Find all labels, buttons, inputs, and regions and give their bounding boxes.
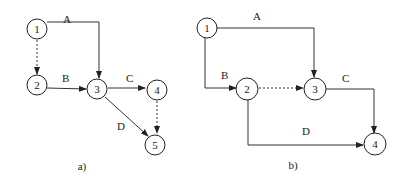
edge-a-2-3	[47, 88, 86, 89]
node-b-3: 3	[304, 78, 326, 100]
edge-label-b-B: B	[221, 69, 228, 81]
svg-text:1: 1	[34, 23, 40, 35]
edge-label-b-C: C	[342, 72, 349, 84]
edge-label-a-A: A	[63, 13, 71, 25]
node-b-4: 4	[364, 133, 386, 155]
caption-b: b)	[288, 159, 298, 172]
node-b-1: 1	[197, 18, 217, 38]
edge-label-a-B: B	[62, 72, 69, 84]
edge-label-a-D: D	[117, 120, 125, 132]
node-a-3: 3	[87, 79, 107, 99]
node-a-1: 1	[27, 19, 47, 39]
node-a-4: 4	[147, 80, 167, 100]
edge-b-2-4	[248, 99, 363, 145]
diagram-a: A B C D 1 2 3 4 5 a)	[27, 13, 167, 173]
svg-text:2: 2	[34, 79, 40, 91]
caption-a: a)	[78, 160, 87, 173]
svg-text:3: 3	[94, 83, 100, 95]
edge-b-1-3	[216, 28, 314, 77]
edge-label-b-D: D	[302, 125, 310, 137]
network-diagrams: A B C D 1 2 3 4 5 a)	[0, 0, 405, 181]
edge-a-3-5	[105, 97, 148, 136]
edge-label-a-C: C	[126, 72, 133, 84]
svg-text:2: 2	[244, 83, 250, 95]
svg-text:3: 3	[312, 83, 318, 95]
svg-text:4: 4	[372, 138, 378, 150]
edge-a-1-3	[47, 22, 99, 78]
svg-text:4: 4	[154, 84, 160, 96]
node-a-5: 5	[145, 135, 165, 155]
node-b-2: 2	[236, 78, 258, 100]
node-a-2: 2	[27, 75, 47, 95]
diagram-b: A B C D 1 2 3 4 b)	[197, 10, 386, 172]
edge-b-3-4	[326, 89, 374, 133]
edge-label-b-A: A	[253, 10, 261, 22]
svg-text:1: 1	[204, 22, 210, 34]
svg-text:5: 5	[152, 139, 158, 151]
